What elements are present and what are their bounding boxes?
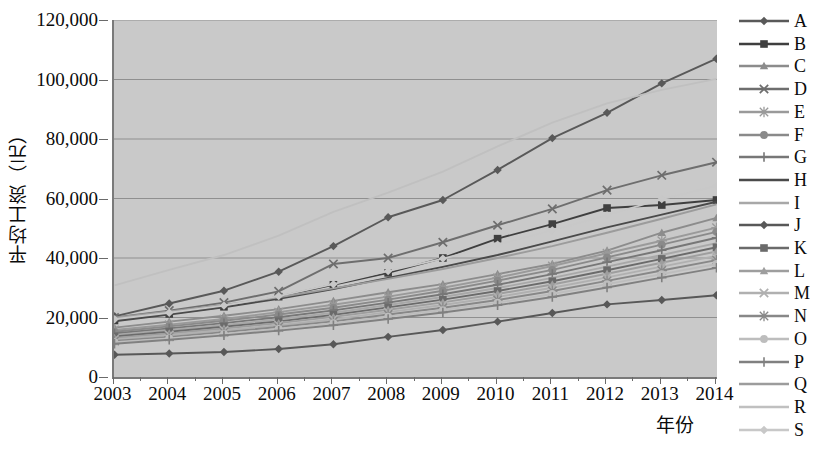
legend-label: M: [794, 282, 810, 304]
x-minor-tick-mark: [195, 377, 196, 381]
x-tick-label: 2010: [477, 383, 515, 405]
data-point-marker: [760, 17, 768, 25]
x-tick-label: 2003: [94, 383, 132, 405]
data-point-marker: [603, 109, 611, 117]
legend-item-q[interactable]: Q: [736, 373, 822, 395]
legend-label: S: [794, 419, 804, 441]
legend-swatch-icon: [736, 419, 792, 441]
plot-area: [112, 20, 717, 379]
y-tick-label: 80,000: [46, 128, 98, 150]
legend-item-j[interactable]: J: [736, 214, 822, 236]
x-minor-tick-mark: [687, 377, 688, 381]
legend-item-i[interactable]: I: [736, 192, 822, 214]
legend-label: C: [794, 55, 806, 77]
data-point-marker: [274, 345, 282, 353]
legend-item-o[interactable]: O: [736, 328, 822, 350]
y-tick-label: 120,000: [36, 9, 98, 31]
data-point-marker: [384, 213, 392, 221]
data-point-marker: [760, 221, 768, 229]
legend-label: O: [794, 328, 807, 350]
data-point-marker: [712, 291, 717, 299]
legend-label: A: [794, 10, 807, 32]
legend-item-p[interactable]: P: [736, 351, 822, 373]
data-point-marker: [759, 311, 769, 321]
legend-swatch-icon: [736, 305, 792, 327]
x-tick-label: 2011: [532, 383, 569, 405]
x-minor-tick-mark: [414, 377, 415, 381]
legend-item-r[interactable]: R: [736, 396, 822, 418]
legend-item-d[interactable]: D: [736, 78, 822, 100]
legend-item-b[interactable]: B: [736, 33, 822, 55]
legend-item-e[interactable]: E: [736, 101, 822, 123]
legend-swatch-icon: [736, 169, 792, 191]
data-point-marker: [439, 326, 447, 334]
legend-item-c[interactable]: C: [736, 55, 822, 77]
legend-item-n[interactable]: N: [736, 305, 822, 327]
data-point-marker: [165, 299, 173, 307]
legend-item-a[interactable]: A: [736, 10, 822, 32]
y-tick-mark: [99, 139, 108, 140]
y-tick-mark: [99, 318, 108, 319]
x-minor-tick-mark: [632, 377, 633, 381]
y-tick-label: 60,000: [46, 188, 98, 210]
data-point-marker: [493, 317, 501, 325]
y-tick-mark: [99, 80, 108, 81]
x-axis-tick-labels: 2003200420052006200720082009201020112012…: [0, 383, 827, 413]
data-point-marker: [658, 296, 666, 304]
legend-label: I: [794, 192, 800, 214]
legend-swatch-icon: [736, 78, 792, 100]
legend-swatch-icon: [736, 373, 792, 395]
x-minor-tick-mark: [304, 377, 305, 381]
legend-item-h[interactable]: H: [736, 169, 822, 191]
legend-label: H: [794, 169, 807, 191]
data-point-marker: [274, 267, 282, 275]
legend-label: D: [794, 78, 807, 100]
data-point-marker: [603, 211, 611, 219]
series-canvas: [114, 20, 717, 377]
legend-item-l[interactable]: L: [736, 260, 822, 282]
x-tick-label: 2007: [312, 383, 350, 405]
legend-label: J: [794, 214, 801, 236]
data-point-marker: [165, 349, 173, 357]
x-minor-tick-mark: [578, 377, 579, 381]
data-point-marker: [760, 425, 768, 433]
data-point-marker: [759, 357, 768, 366]
series-line: [115, 228, 717, 330]
data-point-marker: [759, 152, 768, 161]
legend-swatch-icon: [736, 328, 792, 350]
x-tick-label: 2005: [203, 383, 241, 405]
data-point-marker: [760, 244, 768, 252]
legend-swatch-icon: [736, 10, 792, 32]
y-tick-mark: [99, 377, 108, 378]
data-point-marker: [603, 204, 611, 212]
legend-item-k[interactable]: K: [736, 237, 822, 259]
series-line: [115, 79, 717, 285]
y-tick-label: 100,000: [36, 69, 98, 91]
legend-item-m[interactable]: M: [736, 282, 822, 304]
legend-label: N: [794, 305, 807, 327]
y-tick-mark: [99, 199, 108, 200]
data-point-marker: [220, 348, 228, 356]
data-point-marker: [760, 335, 768, 343]
legend-swatch-icon: [736, 260, 792, 282]
legend-swatch-icon: [736, 124, 792, 146]
data-point-marker: [760, 131, 768, 139]
legend-item-s[interactable]: S: [736, 419, 822, 441]
data-point-marker: [439, 196, 447, 204]
legend-swatch-icon: [736, 282, 792, 304]
legend-label: L: [794, 260, 805, 282]
legend: ABCDEFGHIJKLMNOPQRS: [736, 10, 822, 446]
data-point-marker: [760, 40, 768, 48]
legend-swatch-icon: [736, 237, 792, 259]
x-minor-tick-mark: [523, 377, 524, 381]
series-line: [115, 162, 717, 317]
x-tick-label: 2014: [696, 383, 734, 405]
x-minor-tick-mark: [468, 377, 469, 381]
legend-swatch-icon: [736, 55, 792, 77]
legend-swatch-icon: [736, 101, 792, 123]
legend-label: R: [794, 396, 806, 418]
legend-label: G: [794, 146, 807, 168]
legend-item-g[interactable]: G: [736, 146, 822, 168]
legend-item-f[interactable]: F: [736, 124, 822, 146]
y-tick-label: 40,000: [46, 247, 98, 269]
